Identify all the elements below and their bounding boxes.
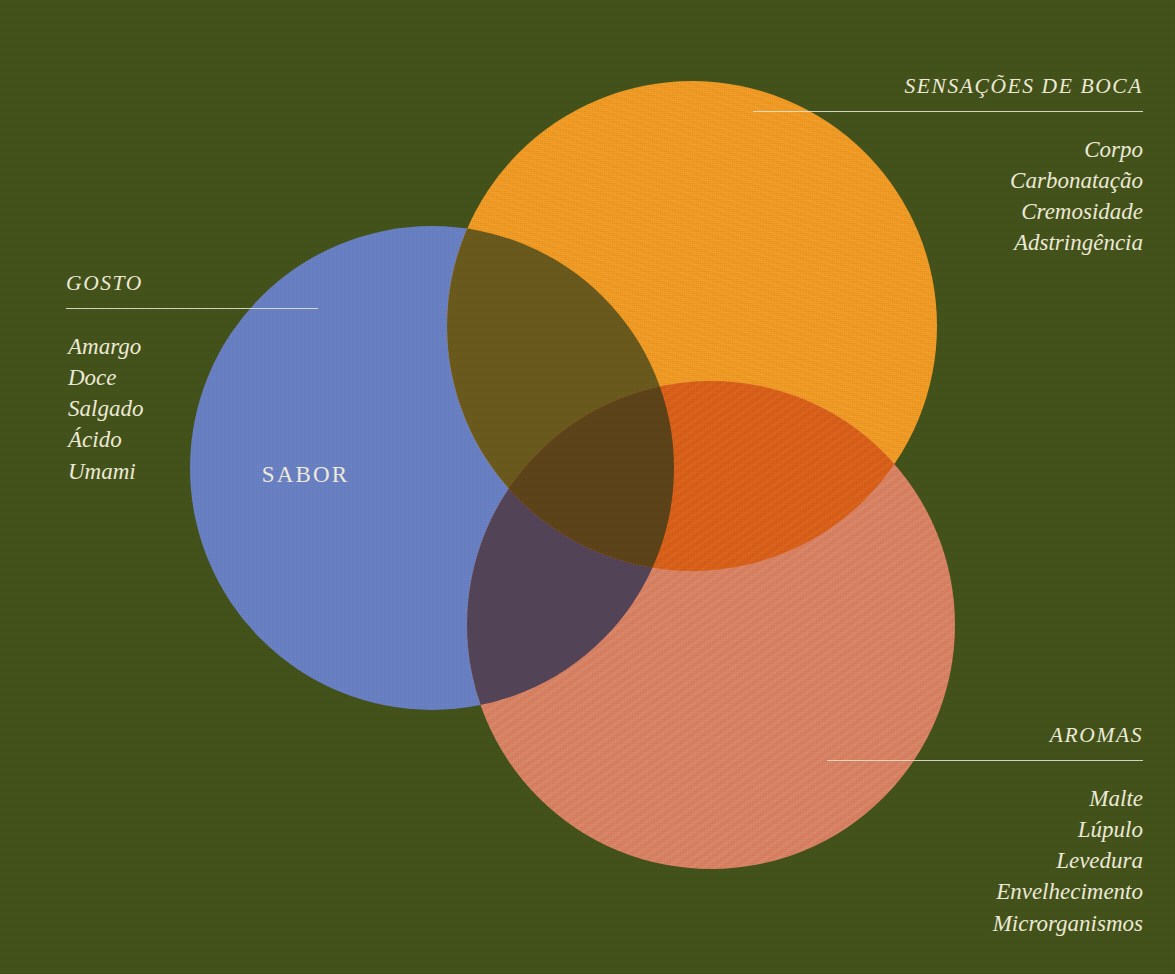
heading-aromas: AROMAS (827, 725, 1143, 747)
list-item: Doce (68, 362, 318, 393)
list-item: Malte (827, 783, 1143, 814)
list-item: Umami (68, 456, 318, 487)
item-list-aromas: Malte Lúpulo Levedura Envelhecimento Mic… (827, 783, 1143, 939)
label-block-sensacoes: SENSAÇÕES DE BOCA Corpo Carbonatação Cre… (753, 76, 1143, 259)
list-item: Salgado (68, 393, 318, 424)
rule-gosto (66, 308, 318, 309)
heading-sensacoes: SENSAÇÕES DE BOCA (753, 76, 1143, 98)
venn-diagram-canvas: SABOR GOSTO Amargo Doce Salgado Ácido Um… (0, 0, 1175, 974)
item-list-gosto: Amargo Doce Salgado Ácido Umami (66, 331, 318, 487)
label-block-gosto: GOSTO Amargo Doce Salgado Ácido Umami (66, 273, 318, 487)
list-item: Adstringência (753, 227, 1143, 258)
list-item: Ácido (68, 424, 318, 455)
rule-aromas (827, 760, 1143, 761)
list-item: Lúpulo (827, 814, 1143, 845)
label-block-aromas: AROMAS Malte Lúpulo Levedura Envelhecime… (827, 725, 1143, 939)
list-item: Microrganismos (827, 908, 1143, 939)
item-list-sensacoes: Corpo Carbonatação Cremosidade Adstringê… (753, 134, 1143, 259)
heading-gosto: GOSTO (66, 273, 318, 295)
list-item: Corpo (753, 134, 1143, 165)
list-item: Carbonatação (753, 165, 1143, 196)
list-item: Amargo (68, 331, 318, 362)
list-item: Envelhecimento (827, 876, 1143, 907)
list-item: Cremosidade (753, 196, 1143, 227)
list-item: Levedura (827, 845, 1143, 876)
rule-sensacoes (753, 111, 1143, 112)
